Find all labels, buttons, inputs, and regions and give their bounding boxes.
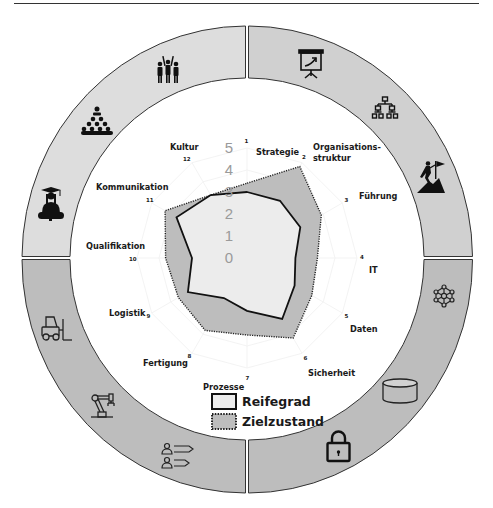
tick-label-1: 1 (225, 227, 233, 244)
tick-label-4: 4 (225, 161, 233, 178)
axis-label-strategie: Strategie (256, 147, 300, 157)
axis-index-7: 7 (246, 375, 250, 381)
axis-label-kultur: Kultur (170, 142, 200, 152)
tick-label-2: 2 (225, 205, 233, 222)
axis-index-12: 12 (183, 156, 191, 162)
axis-label-prozesse: Prozesse (203, 382, 245, 392)
axis-label-logistik: Logistik (109, 308, 146, 318)
legend-label-zielzustand: Zielzustand (242, 414, 324, 429)
tick-label-0: 0 (225, 249, 233, 266)
axis-label-daten: Daten (350, 324, 378, 334)
axis-label-kommunikation: Kommunikation (96, 182, 169, 192)
axis-label-organisationsstruktur-line2: struktur (313, 153, 352, 163)
axis-index-9: 9 (147, 313, 151, 319)
legend-swatch-zielzustand (212, 414, 236, 429)
axis-index-5: 5 (345, 313, 349, 319)
axis-index-11: 11 (146, 197, 154, 203)
axis-label-fuehrung: Führung (359, 191, 398, 201)
axis-index-2: 2 (302, 154, 306, 160)
maturity-radar-diagram: 5 4 3 2 1 0 Strategie 1 Organisations- s… (0, 0, 493, 508)
axis-label-it: IT (369, 265, 378, 275)
axis-index-10: 10 (129, 256, 137, 262)
axis-label-organisationsstruktur: Organisations- (313, 142, 381, 152)
axis-index-4: 4 (360, 254, 364, 260)
tick-label-5: 5 (225, 139, 233, 156)
axis-index-1: 1 (245, 138, 249, 144)
legend-swatch-reifegrad (212, 394, 236, 409)
axis-label-sicherheit: Sicherheit (308, 368, 355, 378)
database-icon (383, 379, 417, 403)
axis-index-8: 8 (188, 353, 192, 359)
tick-label-3: 3 (225, 183, 233, 200)
axis-index-3: 3 (345, 197, 349, 203)
axis-index-6: 6 (304, 355, 308, 361)
legend-label-reifegrad: Reifegrad (242, 394, 311, 409)
axis-label-fertigung: Fertigung (143, 358, 188, 368)
axis-label-qualifikation: Qualifikation (86, 241, 145, 251)
legend: Reifegrad Zielzustand (212, 394, 324, 429)
